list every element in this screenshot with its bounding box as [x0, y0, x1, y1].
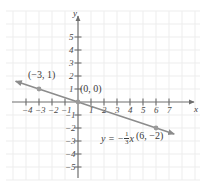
x-tick-label-7: 7	[167, 106, 172, 115]
equation-variable: x	[129, 133, 133, 144]
x-tick-label-6: 6	[154, 106, 159, 115]
point-label-origin: (0, 0)	[80, 84, 102, 94]
point-label-6-neg2: (6, −2)	[136, 131, 163, 141]
y-tick-label-2: 2	[69, 72, 74, 81]
equation-minus-sign: −	[117, 133, 124, 144]
y-tick-label-neg5: −5	[65, 163, 76, 172]
y-tick-label-3: 3	[69, 59, 74, 68]
grid-lines	[6, 11, 200, 180]
y-tick-label-neg4: −4	[65, 150, 76, 159]
y-tick-label-neg1: −1	[65, 111, 76, 120]
coordinate-plane-figure: −4 −3 −2 −1 1 2 3 4 5 6 7 5 4 3 2 1 −1 −…	[0, 0, 206, 190]
x-tick-label-neg2: −2	[48, 106, 59, 115]
graph-canvas	[0, 0, 206, 190]
x-axis-label: x	[194, 105, 198, 114]
x-tick-label-5: 5	[141, 106, 146, 115]
x-tick-label-4: 4	[128, 106, 133, 115]
equation-annotation: y = −13x	[101, 131, 134, 147]
y-tick-label-1: 1	[69, 85, 74, 94]
point-label-neg3-1: (−3, 1)	[28, 70, 55, 80]
equation-equals: =	[108, 133, 115, 144]
y-tick-label-4: 4	[69, 46, 74, 55]
x-tick-label-3: 3	[115, 106, 120, 115]
data-point-origin	[76, 100, 81, 105]
y-tick-label-neg3: −3	[65, 137, 76, 146]
x-tick-label-neg4: −4	[22, 106, 33, 115]
y-tick-label-neg2: −2	[65, 124, 76, 133]
y-tick-label-5: 5	[69, 33, 74, 42]
data-point-neg3-1	[37, 87, 42, 92]
x-tick-label-neg3: −3	[35, 106, 46, 115]
y-axis-label: y	[73, 9, 77, 18]
x-tick-label-1: 1	[89, 106, 94, 115]
x-tick-label-2: 2	[102, 106, 107, 115]
